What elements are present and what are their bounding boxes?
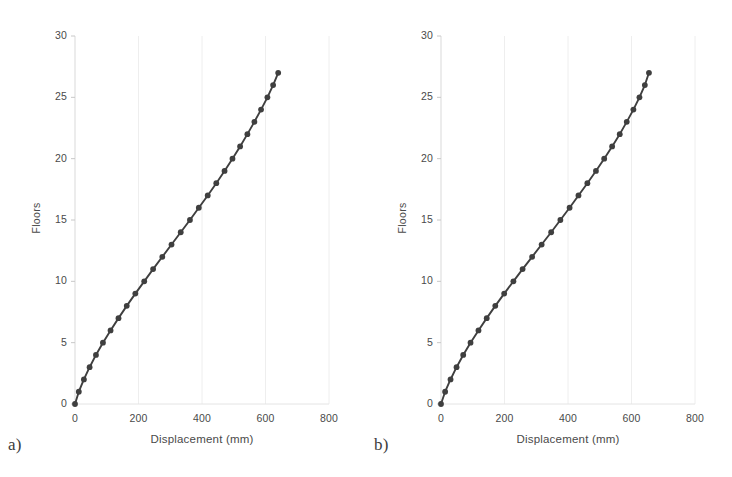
- y-tick-label: 15: [407, 213, 433, 225]
- data-point-marker: [576, 193, 582, 199]
- y-tick-label: 5: [41, 336, 67, 348]
- data-point-marker: [557, 217, 563, 223]
- y-tick-label: 20: [407, 152, 433, 164]
- y-tick-label: 20: [41, 152, 67, 164]
- data-point-marker: [617, 131, 623, 137]
- x-tick-label: 200: [117, 412, 161, 424]
- data-point-marker: [567, 205, 573, 211]
- data-point-marker: [150, 266, 156, 272]
- data-point-marker: [501, 291, 507, 297]
- data-point-marker: [510, 278, 516, 284]
- data-point-marker: [448, 377, 454, 383]
- y-tick-label: 15: [41, 213, 67, 225]
- data-point-marker: [270, 82, 276, 88]
- y-tick-label: 0: [41, 397, 67, 409]
- y-tick-label: 25: [41, 90, 67, 102]
- data-point-marker: [637, 94, 643, 100]
- data-point-marker: [213, 180, 219, 186]
- x-axis-title: Displacement (mm): [421, 433, 715, 445]
- data-point-marker: [642, 82, 648, 88]
- panel-tag: a): [8, 435, 22, 455]
- data-point-marker: [442, 389, 448, 395]
- data-point-marker: [609, 144, 615, 150]
- x-tick-label: 0: [419, 412, 463, 424]
- data-point-marker: [81, 377, 87, 383]
- data-point-marker: [601, 156, 607, 162]
- data-point-marker: [205, 193, 211, 199]
- data-point-marker: [438, 401, 444, 407]
- data-series: [438, 70, 652, 407]
- data-point-marker: [265, 94, 271, 100]
- gridlines-vertical: [139, 36, 330, 404]
- data-point-marker: [548, 229, 554, 235]
- data-point-marker: [237, 144, 243, 150]
- x-tick-label: 800: [307, 412, 351, 424]
- data-series: [72, 70, 281, 407]
- chart-panel: 0510152025300200400600800FloorsDisplacem…: [0, 0, 366, 477]
- data-point-marker: [529, 254, 535, 260]
- data-point-marker: [492, 303, 498, 309]
- chart-panel: 0510152025300200400600800FloorsDisplacem…: [366, 0, 732, 477]
- data-point-marker: [230, 156, 236, 162]
- data-point-marker: [169, 242, 175, 248]
- y-tick-label: 0: [407, 397, 433, 409]
- y-tick-label: 25: [407, 90, 433, 102]
- data-point-marker: [87, 364, 93, 370]
- data-point-marker: [584, 180, 590, 186]
- plot-area: 0510152025300200400600800FloorsDisplacem…: [0, 0, 366, 477]
- data-point-marker: [454, 364, 460, 370]
- data-point-marker: [141, 278, 147, 284]
- y-axis-title: Floors: [396, 195, 408, 241]
- data-point-marker: [539, 242, 545, 248]
- data-point-marker: [124, 303, 130, 309]
- x-tick-label: 200: [483, 412, 527, 424]
- data-point-marker: [245, 131, 251, 137]
- data-point-marker: [468, 340, 474, 346]
- data-point-marker: [132, 291, 138, 297]
- data-point-marker: [76, 389, 82, 395]
- data-point-marker: [258, 107, 264, 113]
- x-tick-label: 600: [610, 412, 654, 424]
- data-point-marker: [646, 70, 652, 76]
- series-line: [441, 73, 649, 404]
- data-point-marker: [93, 352, 99, 358]
- y-tick-label: 30: [41, 29, 67, 41]
- data-point-marker: [631, 107, 637, 113]
- x-tick-label: 600: [244, 412, 288, 424]
- x-tick-label: 800: [673, 412, 717, 424]
- data-point-marker: [520, 266, 526, 272]
- y-tick-label: 10: [407, 274, 433, 286]
- data-point-marker: [196, 205, 202, 211]
- data-point-marker: [251, 119, 257, 125]
- data-point-marker: [593, 168, 599, 174]
- y-axis-title: Floors: [30, 195, 42, 241]
- x-tick-label: 400: [546, 412, 590, 424]
- figure-two-panel-displacement-profiles: 0510152025300200400600800FloorsDisplacem…: [0, 0, 732, 477]
- data-point-marker: [108, 328, 114, 334]
- data-point-marker: [460, 352, 466, 358]
- data-point-marker: [484, 315, 490, 321]
- data-point-marker: [159, 254, 165, 260]
- y-tick-label: 5: [407, 336, 433, 348]
- x-tick-label: 0: [53, 412, 97, 424]
- x-axis-title: Displacement (mm): [55, 433, 349, 445]
- plot-area: 0510152025300200400600800FloorsDisplacem…: [366, 0, 732, 477]
- panel-tag: b): [374, 435, 389, 455]
- data-point-marker: [187, 217, 193, 223]
- y-tick-label: 30: [407, 29, 433, 41]
- data-point-marker: [624, 119, 630, 125]
- series-line: [75, 73, 278, 404]
- data-point-marker: [116, 315, 122, 321]
- data-point-marker: [476, 328, 482, 334]
- data-point-marker: [222, 168, 228, 174]
- data-point-marker: [72, 401, 78, 407]
- data-point-marker: [100, 340, 106, 346]
- gridlines-vertical: [505, 36, 696, 404]
- x-tick-label: 400: [180, 412, 224, 424]
- data-point-marker: [275, 70, 281, 76]
- y-tick-label: 10: [41, 274, 67, 286]
- data-point-marker: [178, 229, 184, 235]
